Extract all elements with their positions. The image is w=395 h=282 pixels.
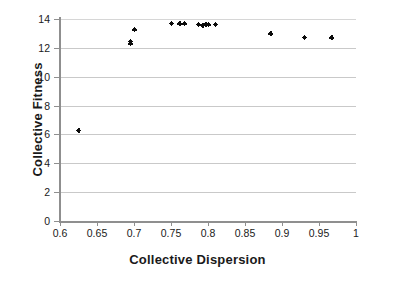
x-tick-label: 1 <box>336 228 376 239</box>
gridline-y <box>60 19 356 20</box>
x-tick-label: 0.65 <box>77 228 117 239</box>
gridline-y <box>60 192 356 193</box>
x-axis-title: Collective Dispersion <box>0 252 395 267</box>
x-tick-label: 0.8 <box>188 228 228 239</box>
x-tick-label: 0.9 <box>262 228 302 239</box>
scatter-chart: 02468101214 0.60.650.70.750.80.850.90.95… <box>0 0 395 282</box>
data-point <box>213 22 218 27</box>
data-point <box>329 35 334 40</box>
x-tick-label: 0.85 <box>225 228 265 239</box>
x-axis-line <box>59 221 357 223</box>
gridline-y <box>60 48 356 49</box>
data-point <box>132 27 137 32</box>
gridline-y <box>60 106 356 107</box>
data-point <box>169 21 174 26</box>
data-point <box>128 39 133 44</box>
gridline-y <box>60 77 356 78</box>
x-tick-label: 0.6 <box>40 228 80 239</box>
y-axis-line <box>59 17 61 223</box>
data-point <box>76 128 81 133</box>
data-point <box>206 22 211 27</box>
x-tick-label: 0.95 <box>299 228 339 239</box>
plot-area <box>60 19 356 221</box>
y-axis-title: Collective Fitness <box>30 20 45 220</box>
x-tick-label: 0.7 <box>114 228 154 239</box>
data-point <box>182 21 187 26</box>
data-point <box>268 31 273 36</box>
gridline-y <box>60 163 356 164</box>
data-point <box>302 35 307 40</box>
x-tick-label: 0.75 <box>151 228 191 239</box>
gridline-y <box>60 134 356 135</box>
